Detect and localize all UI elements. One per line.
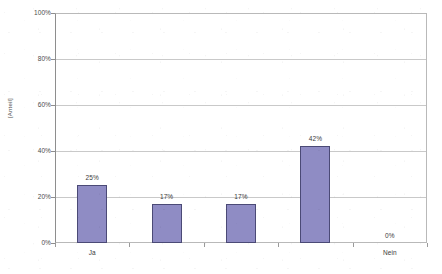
bar-chart: [Anteil] 100% 80% 60% 40% 20% 0% 25% 17%… xyxy=(0,0,442,274)
bar-slot-3: 17% xyxy=(204,13,278,243)
x-category-label-1: Ja xyxy=(55,250,129,257)
bar-value-label: 0% xyxy=(385,233,395,240)
x-tick-mark xyxy=(353,243,354,247)
y-tick-label-20: 20% xyxy=(7,194,51,201)
y-axis: 100% 80% 60% 40% 20% 0% xyxy=(0,0,51,274)
y-tick-label-40: 40% xyxy=(7,148,51,155)
x-tick-mark xyxy=(55,243,56,247)
y-tick-label-60: 60% xyxy=(7,102,51,109)
bar-slot-5: 0% xyxy=(353,13,427,243)
bar-value-label: 25% xyxy=(86,175,99,182)
bar-slot-4: 42% xyxy=(278,13,352,243)
x-tick-mark xyxy=(129,243,130,247)
y-tick-label-0: 0% xyxy=(7,240,51,247)
x-tick-mark xyxy=(427,243,428,247)
y-tick-label-100: 100% xyxy=(7,10,51,17)
bar-value-label: 17% xyxy=(234,194,247,201)
bar-value-label: 17% xyxy=(160,194,173,201)
bar-slot-1: 25% xyxy=(55,13,129,243)
bar-slot-2: 17% xyxy=(129,13,203,243)
x-tick-mark xyxy=(204,243,205,247)
bar-value-label: 42% xyxy=(309,136,322,143)
bars-layer: 25% 17% 17% 42% 0% xyxy=(55,13,427,243)
bar-rect[interactable] xyxy=(77,185,107,243)
y-tick-label-80: 80% xyxy=(7,56,51,63)
x-category-label-5: Nein xyxy=(353,250,427,257)
bar-rect[interactable] xyxy=(226,204,256,243)
x-tick-mark xyxy=(278,243,279,247)
bar-rect[interactable] xyxy=(300,146,330,243)
bar-rect[interactable] xyxy=(152,204,182,243)
